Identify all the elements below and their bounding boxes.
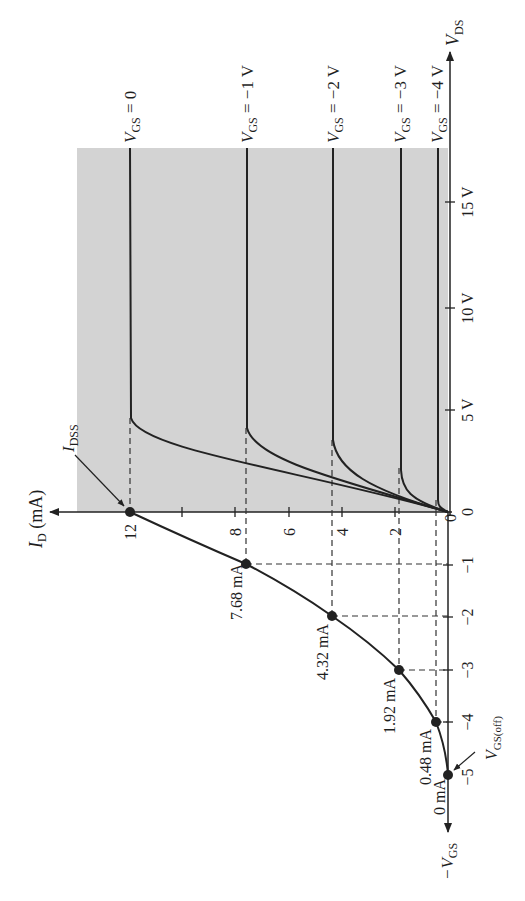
vgsoff-label: VGS(off) xyxy=(483,716,504,760)
vds-tick-5: 5 V xyxy=(459,398,476,422)
id-tick-8: 8 xyxy=(227,528,244,536)
vgs-tick-minus2: −2 xyxy=(459,608,476,625)
neg-vgs-axis-label: −VGS xyxy=(438,843,460,880)
vds-tick-0-top: 0 xyxy=(442,514,459,522)
curve-label-vgs-minus4: VGS = −4 V xyxy=(428,64,450,143)
id-tick-6: 6 xyxy=(281,528,298,536)
curve-label-vgs-minus3: VGS = −3 V xyxy=(391,64,413,143)
transfer-curve xyxy=(130,512,448,775)
id-tick-4: 4 xyxy=(334,528,351,536)
id-tick-12: 12 xyxy=(122,524,139,540)
transfer-points xyxy=(125,507,453,780)
point-label-0-48: 0.48 mA xyxy=(417,729,434,785)
curve-label-vgs-0: VGS = 0 xyxy=(121,91,143,143)
vds-tick-10: 10 V xyxy=(459,292,476,324)
vgs-tick-0: 0 xyxy=(459,508,476,516)
curve-label-vgs-minus2: VGS = −2 V xyxy=(324,64,346,143)
point-label-0: 0 mA xyxy=(431,779,448,815)
point-label-4-32: 4.32 mA xyxy=(314,624,331,680)
vgs-tick-minus5: −5 xyxy=(459,768,476,785)
jfet-characteristics-figure: VGS = 0 VGS = −1 V VGS = −2 V VGS = −3 V… xyxy=(0,0,525,901)
vds-axis-label: VDS xyxy=(443,20,466,46)
shaded-saturation-region xyxy=(77,148,448,512)
vgs-tick-minus1: −1 xyxy=(459,556,476,573)
vds-tick-15: 15 V xyxy=(459,186,476,218)
id-axis-label: ID (mA) xyxy=(26,490,49,549)
vgs-tick-minus4: −4 xyxy=(459,713,476,730)
vgsoff-arrow xyxy=(454,752,475,770)
id-tick-2: 2 xyxy=(387,528,404,536)
point-label-1-92: 1.92 mA xyxy=(381,678,398,734)
curve-label-vgs-minus1: VGS = −1 V xyxy=(238,64,260,143)
point-label-7-68: 7.68 mA xyxy=(228,564,245,620)
vgs-tick-minus3: −3 xyxy=(459,661,476,678)
idss-label: IDSS xyxy=(59,424,81,453)
